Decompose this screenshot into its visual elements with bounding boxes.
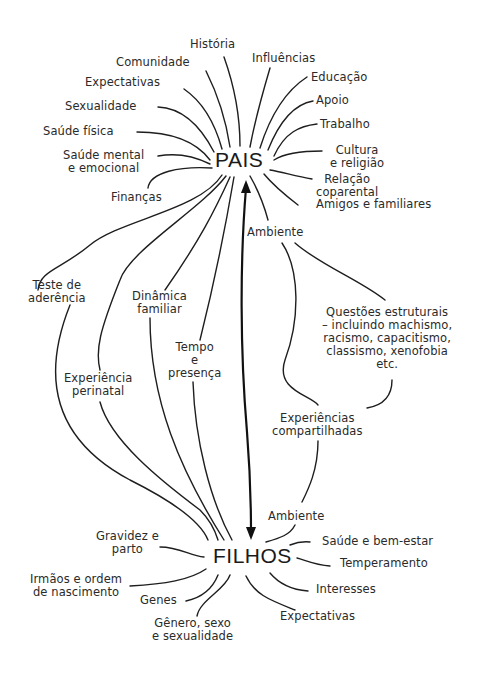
line-saude-bem-estar: [290, 542, 310, 545]
line-questoes-compartilhadas: [367, 380, 392, 408]
arrowhead-down-icon: [246, 527, 256, 540]
label-ambiente-pais: Ambiente: [247, 226, 303, 239]
label-comunidade: Comunidade: [116, 56, 190, 69]
label-genero-sexo-sexualidade: Gênero, sexo e sexualidade: [152, 617, 233, 643]
line-cultura: [274, 151, 322, 160]
label-educacao: Educação: [311, 71, 367, 84]
line-influencias: [250, 68, 270, 147]
label-interesses: Interesses: [316, 583, 376, 596]
label-saude-mental: Saúde mental e emocional: [63, 149, 144, 175]
line-pais-ambiente: [250, 176, 268, 220]
label-saude-e-bem-estar: Saúde e bem-estar: [322, 535, 433, 548]
label-tempo-e-presenca: Tempo e presença: [168, 341, 221, 380]
line-genes: [186, 575, 218, 601]
line-compartilhadas-ambiente: [302, 441, 318, 502]
line-amigos: [264, 174, 298, 205]
label-trabalho: Trabalho: [320, 118, 370, 131]
bidirectional-arrow: [242, 188, 251, 531]
label-questoes-estruturais: Questões estruturais – incluindo machism…: [322, 306, 452, 371]
label-historia: História: [190, 38, 235, 51]
line-gravidez: [160, 547, 204, 557]
parent-child-influence-diagram: PAIS FILHOS História Comunidade Influênc…: [0, 0, 480, 681]
line-irmaos: [130, 569, 206, 586]
line-interesses: [270, 573, 308, 591]
line-saude-fisica: [137, 132, 210, 160]
line-ambiente-filhos: [266, 525, 295, 542]
line-temperamento: [297, 558, 330, 566]
label-sexualidade: Sexualidade: [65, 100, 137, 113]
label-temperamento: Temperamento: [340, 557, 428, 570]
label-ambiente-filhos: Ambiente: [268, 510, 324, 523]
line-pais-tempo: [200, 177, 234, 340]
line-sexualidade: [158, 107, 214, 152]
hub-filhos: FILHOS: [213, 544, 292, 568]
label-experiencia-perinatal: Experiência perinatal: [64, 372, 132, 398]
label-expectativas: Expectativas: [85, 76, 160, 89]
line-educacao: [260, 77, 307, 148]
label-dinamica-familiar: Dinâmica familiar: [132, 290, 187, 316]
label-gravidez-e-parto: Gravidez e parto: [96, 530, 159, 556]
label-apoio: Apoio: [316, 94, 349, 107]
line-perinatal-filhos: [100, 402, 218, 540]
label-genes: Genes: [140, 594, 177, 607]
label-cultura: Cultura e religião: [330, 144, 384, 170]
line-saude-mental: [158, 155, 210, 164]
line-pais-dinamica: [165, 177, 230, 290]
hub-pais: PAIS: [215, 148, 263, 172]
line-tempo-filhos: [193, 382, 232, 540]
line-expectativas-filhos: [246, 576, 295, 610]
label-influencias: Influências: [252, 52, 315, 65]
arrowhead-up-icon: [241, 180, 251, 193]
label-teste-de-aderencia: Teste de aderência: [28, 279, 86, 305]
line-financas: [270, 170, 312, 179]
line-historia: [224, 57, 240, 146]
label-financas: Relação coparental: [316, 173, 378, 199]
line-relacao: [148, 168, 212, 188]
label-relacao: Finanças: [111, 191, 162, 204]
line-ambiente-questoes: [295, 243, 385, 300]
label-irmaos-e-ordem: Irmãos e ordem de nascimento: [30, 573, 122, 599]
label-experiencias-compartilhadas: Experiências compartilhadas: [272, 412, 363, 438]
label-saude-fisica: Saúde física: [43, 125, 114, 138]
label-expectativas-filhos: Expectativas: [280, 610, 355, 623]
label-amigos: Amigos e familiares: [316, 198, 431, 211]
line-ambiente-compartilhadas: [282, 243, 318, 405]
